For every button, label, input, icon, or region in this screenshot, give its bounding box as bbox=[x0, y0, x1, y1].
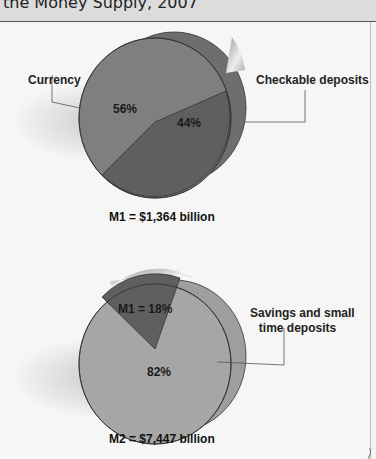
savings-label-line1: Savings and small bbox=[250, 306, 355, 320]
currency-percent: 56% bbox=[113, 102, 137, 116]
m2-pie bbox=[15, 269, 284, 444]
m1-caption: M1 = $1,364 billion bbox=[109, 210, 215, 224]
m1-pie-face bbox=[79, 38, 231, 198]
checkable-deposits-label: Checkable deposits bbox=[256, 73, 369, 87]
savings-label: Savings and small time deposits bbox=[250, 306, 345, 336]
m1-pie bbox=[15, 32, 305, 198]
m2-caption: M2 = $7,447 billion bbox=[109, 432, 215, 446]
checkable-leader-line bbox=[244, 90, 305, 122]
checkable-percent: 44% bbox=[177, 116, 201, 130]
savings-percent: 82% bbox=[147, 365, 171, 379]
m1-share-percent: M1 = 18% bbox=[118, 302, 172, 316]
pie-charts-graphic bbox=[0, 0, 376, 459]
savings-label-line2: time deposits bbox=[259, 321, 336, 335]
currency-label: Currency bbox=[28, 73, 81, 87]
page-corner-mark bbox=[368, 448, 371, 459]
m1-pie-rim-highlight bbox=[226, 37, 245, 73]
